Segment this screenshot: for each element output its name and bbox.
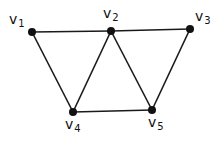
edge-v1-v2 [32, 31, 111, 32]
edge-v4-v5 [73, 110, 152, 112]
label-v1-subscript: 1 [18, 18, 24, 29]
label-v4-base: v [65, 116, 73, 132]
label-v5: v5 [148, 115, 164, 132]
label-v4: v4 [65, 117, 81, 134]
node-v4 [69, 108, 77, 116]
label-v1-base: v [9, 11, 17, 27]
label-v3: v3 [195, 9, 211, 26]
label-v5-base: v [148, 114, 156, 130]
edges-group [32, 29, 190, 112]
graph-diagram: v1 v2 v3 v4 v5 [0, 0, 220, 144]
edge-v1-v4 [32, 32, 73, 112]
label-v1: v1 [9, 12, 25, 29]
label-v3-base: v [195, 8, 203, 24]
edge-v2-v5 [111, 31, 152, 110]
label-v2-subscript: 2 [112, 12, 118, 23]
edge-v3-v5 [152, 29, 190, 110]
node-v3 [186, 25, 194, 33]
node-v2 [107, 27, 115, 35]
node-v5 [148, 106, 156, 114]
node-v1 [28, 28, 36, 36]
edge-v2-v3 [111, 29, 190, 31]
label-v5-subscript: 5 [157, 121, 163, 132]
edge-v2-v4 [73, 31, 111, 112]
label-v2-base: v [103, 5, 111, 21]
label-v4-subscript: 4 [74, 123, 80, 134]
nodes-group [28, 25, 194, 116]
label-v3-subscript: 3 [204, 15, 210, 26]
label-v2: v2 [103, 6, 119, 23]
